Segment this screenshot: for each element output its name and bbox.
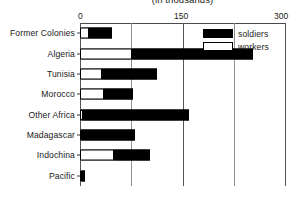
bar-segment-workers [80, 170, 82, 181]
category-label: Other Africa [28, 110, 75, 120]
bar-row: Morocco [80, 84, 285, 104]
category-label: Pacific [49, 171, 75, 181]
bar-segment-workers [80, 68, 102, 79]
bar-row: Madagascar [80, 125, 285, 145]
legend-item: workers [203, 41, 269, 52]
bar-segment-workers [80, 89, 104, 100]
bar-segment-workers [80, 150, 114, 161]
bar-segment-soldiers [80, 130, 135, 141]
legend-swatch-workers [203, 42, 233, 51]
category-label: Former Colonies [10, 28, 75, 38]
legend-label: soldiers [238, 29, 268, 39]
legend-label: workers [238, 42, 269, 52]
bar-row: Pacific [80, 166, 285, 186]
chart-title: (in thousands) [80, 0, 285, 5]
bar-chart: (in thousands) 0 150 300 Former Colonies… [0, 0, 296, 200]
legend-swatch-soldiers [203, 29, 233, 38]
bar-segment-workers [80, 48, 132, 59]
bar-row: Other Africa [80, 105, 285, 125]
bar-row: Tunisia [80, 64, 285, 84]
bar-segment-workers [80, 109, 83, 120]
x-tick-label-0: 0 [78, 11, 83, 21]
x-tick-label-150: 150 [174, 11, 188, 21]
bar-segment-workers [80, 28, 89, 39]
category-label: Morocco [41, 89, 75, 99]
gridline-300 [285, 23, 286, 186]
chart-legend: soldiersworkers [203, 28, 269, 54]
bar-row: Indochina [80, 145, 285, 165]
category-label: Tunisia [47, 69, 75, 79]
category-label: Indochina [37, 150, 75, 160]
bar-segment-soldiers [80, 109, 189, 120]
category-label: Madagascar [27, 130, 75, 140]
bar-segment-workers [80, 130, 82, 141]
x-tick-label-300: 300 [274, 11, 288, 21]
category-label: Algeria [48, 49, 75, 59]
legend-item: soldiers [203, 28, 269, 39]
